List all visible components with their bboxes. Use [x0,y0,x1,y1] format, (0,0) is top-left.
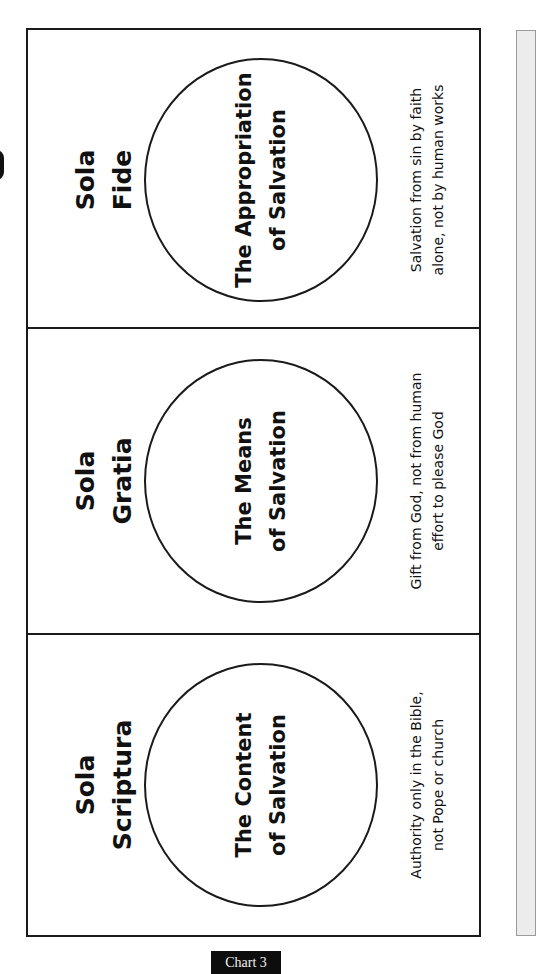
side-panel [516,30,536,936]
heading-line: Sola [67,150,104,211]
panel-heading: Sola Fide [67,150,141,211]
chart-label: Chart 3 [211,951,281,974]
circle-label-line: of Salvation [261,713,295,858]
heading-line: Fide [104,150,141,211]
heading-line: Gratia [104,437,141,524]
description-line: Authority only in the Bible, [405,691,427,878]
description-line: effort to please God [427,373,449,590]
circle-label-line: of Salvation [261,72,295,287]
circle-label: The Appropriation of Salvation [227,72,295,287]
panel-sola-fide: Sola Fide The Appropriation of Salvation… [28,30,479,329]
heading-line: Sola [67,437,104,524]
description-line: Salvation from sin by faith [405,85,427,276]
panel-description: Salvation from sin by faith alone, not b… [405,85,449,276]
circle-label-line: The Content [227,713,261,858]
panel-description: Authority only in the Bible, not Pope or… [405,691,449,878]
description-line: not Pope or church [427,691,449,878]
circle-label-line: The Means [227,410,261,552]
heading-line: Sola [67,720,104,851]
description-line: Gift from God, not from human [405,373,427,590]
heading-line: Scriptura [104,720,141,851]
partial-title-glyph [0,150,4,180]
diagram-frame: Sola Fide The Appropriation of Salvation… [26,28,481,937]
description-line: alone, not by human works [427,85,449,276]
panel-heading: Sola Gratia [67,437,141,524]
circle-label-line: of Salvation [261,410,295,552]
circle-label: The Content of Salvation [227,713,295,858]
panel-sola-scriptura: Sola Scriptura The Content of Salvation … [28,635,479,935]
panel-heading: Sola Scriptura [67,720,141,851]
circle-label-line: The Appropriation [227,72,261,287]
panel-description: Gift from God, not from human effort to … [405,373,449,590]
circle-label: The Means of Salvation [227,410,295,552]
panel-sola-gratia: Sola Gratia The Means of Salvation Gift … [28,329,479,635]
